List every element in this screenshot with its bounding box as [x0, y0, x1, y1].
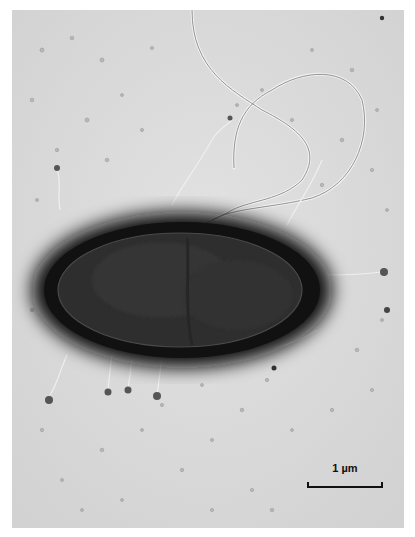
scale-bar-line	[307, 482, 383, 488]
scale-bar-label: 1 µm	[305, 462, 385, 474]
scale-bar: 1 µm	[305, 462, 385, 488]
bacterium-illustration	[12, 10, 404, 528]
micrograph-image: 1 µm	[12, 10, 404, 528]
